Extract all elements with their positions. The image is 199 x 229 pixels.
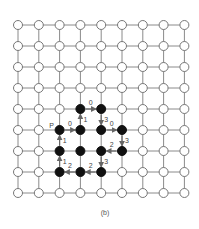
- visited-node: [76, 126, 85, 135]
- chain-code-label: 2: [110, 141, 114, 148]
- grid-node: [76, 42, 85, 51]
- grid-node: [76, 63, 85, 72]
- grid-node: [118, 21, 127, 30]
- grid-node: [55, 21, 64, 30]
- grid-node: [55, 189, 64, 198]
- grid-node: [34, 63, 43, 72]
- grid-node: [76, 189, 85, 198]
- grid-node: [138, 147, 147, 156]
- grid-node: [76, 84, 85, 93]
- grid-node: [34, 168, 43, 177]
- grid-node: [34, 147, 43, 156]
- visited-node: [97, 147, 106, 156]
- chain-code-label: 2: [68, 162, 72, 169]
- grid-node: [138, 84, 147, 93]
- grid-node: [180, 147, 189, 156]
- grid-node: [76, 21, 85, 30]
- chain-code-label: 3: [104, 158, 108, 165]
- grid-node: [34, 84, 43, 93]
- visited-node: [118, 147, 127, 156]
- grid-node: [180, 21, 189, 30]
- visited-node: [97, 105, 106, 114]
- grid-node: [180, 168, 189, 177]
- grid-node: [118, 168, 127, 177]
- grid-node: [14, 42, 23, 51]
- visited-node: [76, 168, 85, 177]
- grid-node: [138, 189, 147, 198]
- grid-node: [159, 84, 168, 93]
- grid-node: [55, 105, 64, 114]
- grid-node: [34, 126, 43, 135]
- start-point-label: P: [49, 122, 54, 129]
- grid-node: [138, 168, 147, 177]
- grid-node: [14, 126, 23, 135]
- grid-node: [14, 105, 23, 114]
- grid-node: [159, 105, 168, 114]
- grid-node: [55, 42, 64, 51]
- grid-node: [97, 42, 106, 51]
- grid-node: [34, 105, 43, 114]
- chain-code-label: 3: [104, 116, 108, 123]
- chain-code-label: 1: [63, 137, 67, 144]
- grid-node: [138, 105, 147, 114]
- grid-node: [97, 189, 106, 198]
- grid-node: [97, 84, 106, 93]
- grid-node: [55, 84, 64, 93]
- grid-node: [34, 189, 43, 198]
- grid-node: [180, 126, 189, 135]
- chain-code-label: 0: [110, 120, 114, 127]
- visited-node: [55, 168, 64, 177]
- grid-node: [118, 63, 127, 72]
- grid-node: [118, 42, 127, 51]
- grid-node: [138, 21, 147, 30]
- visited-node: [55, 126, 64, 135]
- grid-node: [118, 189, 127, 198]
- visited-node: [76, 147, 85, 156]
- grid-node: [159, 42, 168, 51]
- chain-code-label: 1: [63, 158, 67, 165]
- grid-node: [14, 189, 23, 198]
- figure-caption: (b): [0, 209, 199, 216]
- grid-node: [97, 63, 106, 72]
- grid-node: [14, 84, 23, 93]
- grid-node: [118, 84, 127, 93]
- chain-code-label: 1: [83, 116, 87, 123]
- grid-node: [159, 21, 168, 30]
- grid-node: [14, 63, 23, 72]
- grid-node: [138, 63, 147, 72]
- grid-node: [55, 63, 64, 72]
- visited-node: [55, 147, 64, 156]
- grid-node: [159, 126, 168, 135]
- chain-code-label: 0: [68, 120, 72, 127]
- grid-node: [159, 189, 168, 198]
- grid-node: [180, 63, 189, 72]
- visited-node: [97, 168, 106, 177]
- grid-node: [14, 147, 23, 156]
- chain-code-label: 3: [125, 137, 129, 144]
- grid-node: [159, 63, 168, 72]
- grid-diagram: 030103232211P: [0, 0, 199, 229]
- grid-node: [180, 105, 189, 114]
- grid-node: [138, 126, 147, 135]
- grid-node: [34, 42, 43, 51]
- grid-node: [138, 42, 147, 51]
- grid-node: [14, 21, 23, 30]
- visited-node: [118, 126, 127, 135]
- grid-node: [97, 21, 106, 30]
- chain-code-label: 0: [89, 99, 93, 106]
- grid-node: [180, 189, 189, 198]
- grid-node: [159, 147, 168, 156]
- grid-node: [180, 42, 189, 51]
- grid-node: [14, 168, 23, 177]
- visited-node: [76, 105, 85, 114]
- visited-node: [97, 126, 106, 135]
- grid-node: [180, 84, 189, 93]
- grid-nodes: [14, 21, 189, 198]
- grid-node: [159, 168, 168, 177]
- grid-node: [34, 21, 43, 30]
- grid-node: [118, 105, 127, 114]
- chain-code-label: 2: [89, 162, 93, 169]
